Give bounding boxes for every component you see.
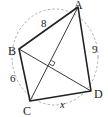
side-label-ab: 8 (41, 17, 47, 29)
diagonal-ac (30, 7, 78, 101)
side-label-bc: 6 (10, 72, 16, 84)
diagonal-bd (19, 49, 91, 91)
quadrilateral-abcd (19, 7, 91, 101)
side-label-ad: 9 (92, 43, 98, 55)
vertex-label-a: A (74, 0, 83, 12)
vertex-label-d: D (94, 87, 103, 101)
vertex-label-b: B (8, 44, 16, 58)
side-label-cd: x (59, 98, 65, 110)
cyclic-quadrilateral-diagram: A B C D 8 6 9 x (0, 0, 108, 117)
vertex-label-c: C (23, 104, 31, 117)
